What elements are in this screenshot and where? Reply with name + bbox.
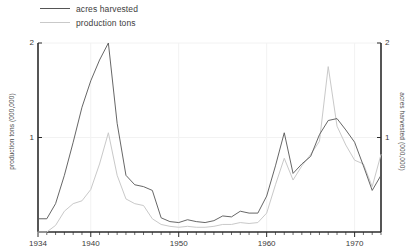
chart-container: acres harvested production tons producti… [0,0,409,252]
legend-swatch-production-tons [40,22,70,23]
x-axis-tick-label-1940: 1940 [71,239,111,248]
y-axis-tick-label-1: 1 [14,133,34,142]
left-axis-title: production tons (000,000) [8,77,15,187]
legend-label-acres-harvested: acres harvested [76,4,138,14]
legend-label-production-tons: production tons [76,18,136,28]
legend-item-acres-harvested: acres harvested [40,2,240,15]
x-axis-tick-label-1934: 1934 [18,239,58,248]
legend-item-production-tons: production tons [40,16,240,29]
y-axis-tick-label-2: 2 [14,38,34,47]
chart-legend: acres harvested production tons [40,2,240,30]
y2-axis-tick-label-2: 2 [385,38,405,47]
legend-swatch-acres-harvested [40,8,70,9]
x-axis-tick-label-1960: 1960 [247,239,287,248]
chart-plot-area [0,0,409,252]
y2-axis-tick-label-1: 1 [385,133,405,142]
x-axis-tick-label-1970: 1970 [335,239,375,248]
x-axis-tick-label-1950: 1950 [159,239,199,248]
chart-tick-marks [38,43,381,237]
right-axis-title: acres harvested (000,000) [399,77,406,187]
chart-gridlines [38,43,381,232]
